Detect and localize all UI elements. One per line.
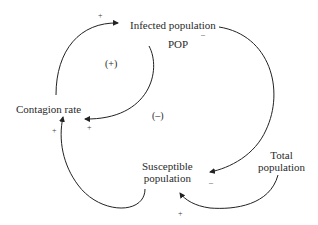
polarity-infected-to-susceptible-end: – bbox=[209, 179, 213, 187]
loop-label-balancing: (–) bbox=[152, 110, 164, 122]
link-total-to-susceptible bbox=[180, 175, 278, 208]
total-line2: population bbox=[258, 161, 305, 173]
link-infected-to-contagion bbox=[85, 46, 154, 119]
polarity-infected-to-susceptible: – bbox=[201, 31, 205, 39]
node-pop: POP bbox=[168, 38, 188, 50]
susceptible-line1: Susceptible bbox=[142, 160, 193, 172]
polarity-susceptible-to-contagion: + bbox=[52, 127, 57, 135]
susceptible-line2: population bbox=[142, 172, 193, 184]
link-susceptible-to-contagion bbox=[61, 117, 145, 208]
node-contagion-rate: Contagion rate bbox=[16, 103, 81, 115]
total-line1: Total bbox=[258, 149, 305, 161]
polarity-infected-to-contagion: + bbox=[87, 124, 92, 132]
node-susceptible-population: Susceptible population bbox=[142, 160, 193, 184]
polarity-contagion-to-infected: + bbox=[98, 12, 103, 20]
node-total-population: Total population bbox=[258, 149, 305, 173]
polarity-total-to-susceptible: + bbox=[178, 210, 183, 218]
loop-label-reinforcing: (+) bbox=[105, 58, 117, 70]
